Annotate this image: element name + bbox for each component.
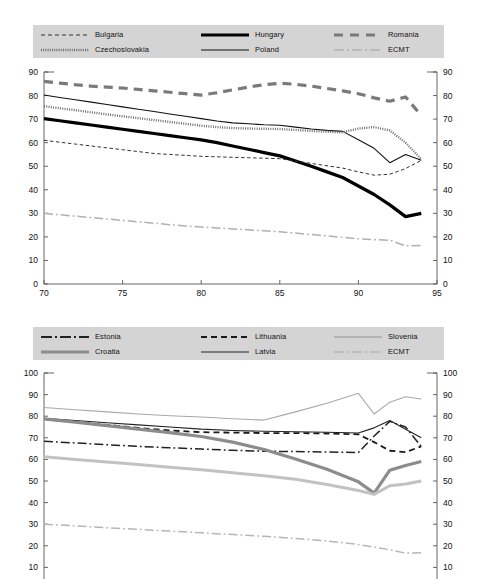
legend-label: Lithuania	[255, 332, 286, 341]
legend-row: Czechoslovakia Poland ECMT	[33, 42, 444, 57]
legend-row: Bulgaria Hungary Romania	[33, 27, 444, 42]
svg-text:80: 80	[29, 411, 39, 421]
legend-item-lithuania[interactable]: Lithuania	[201, 329, 334, 344]
figure-baltic-balkan: Estonia Lithuania Slovenia	[0, 325, 477, 579]
legend-row: Estonia Lithuania Slovenia	[33, 329, 444, 344]
chart-svg-1: 0010102020303040405050606070708080909070…	[0, 62, 477, 310]
legend-figure-1: Bulgaria Hungary Romania	[33, 25, 444, 58]
legend-label: Estonia	[95, 332, 121, 341]
svg-text:80: 80	[196, 288, 206, 298]
line-style-dashdot-black-icon	[41, 331, 89, 342]
legend-item-czechoslovakia[interactable]: Czechoslovakia	[33, 42, 201, 57]
legend-item-hungary[interactable]: Hungary	[201, 27, 334, 42]
svg-text:75: 75	[118, 288, 128, 298]
svg-text:60: 60	[29, 138, 39, 148]
ghost-header	[0, 0, 477, 22]
svg-text:90: 90	[29, 390, 39, 400]
svg-text:60: 60	[443, 454, 453, 464]
line-style-dashed-black-icon	[201, 331, 249, 342]
svg-text:0: 0	[443, 279, 448, 289]
legend-label: Romania	[388, 30, 419, 39]
legend-label: ECMT	[388, 45, 410, 54]
line-style-dashdot-icon	[334, 44, 382, 55]
line-style-solid-thin-icon	[201, 44, 249, 55]
svg-text:90: 90	[443, 390, 453, 400]
svg-text:95: 95	[432, 288, 442, 298]
line-style-solid-thick-gray-icon	[41, 346, 89, 357]
svg-text:30: 30	[443, 519, 453, 529]
svg-text:80: 80	[443, 91, 453, 101]
svg-text:20: 20	[29, 541, 39, 551]
plot-area-figure-1: 0010102020303040405050606070708080909070…	[0, 62, 477, 310]
svg-text:100: 100	[443, 368, 457, 378]
series-line-latvia	[44, 418, 421, 437]
legend-item-ecmt-2[interactable]: ECMT	[334, 344, 444, 359]
series-line-czechoslovakia	[44, 106, 421, 159]
line-style-solid-thick-icon	[201, 29, 249, 40]
line-style-dotted-icon	[41, 44, 89, 55]
svg-text:50: 50	[29, 161, 39, 171]
svg-text:50: 50	[443, 161, 453, 171]
legend-label: Poland	[255, 45, 279, 54]
svg-text:40: 40	[443, 498, 453, 508]
series-line-slovenia	[44, 393, 421, 420]
line-style-dashdot-lightgray-icon	[334, 346, 382, 357]
plot-area-figure-2: 1010202030304040505060607070808090901001…	[0, 363, 477, 579]
legend-item-poland[interactable]: Poland	[201, 42, 334, 57]
line-style-dashed-thick-icon	[334, 29, 382, 40]
legend-item-slovenia[interactable]: Slovenia	[334, 329, 444, 344]
svg-text:70: 70	[443, 114, 453, 124]
chart-page: Bulgaria Hungary Romania	[0, 0, 477, 579]
svg-text:50: 50	[29, 476, 39, 486]
svg-text:30: 30	[29, 519, 39, 529]
svg-text:60: 60	[443, 138, 453, 148]
line-style-solid-thin-black-icon	[201, 346, 249, 357]
svg-text:30: 30	[29, 208, 39, 218]
svg-text:20: 20	[443, 232, 453, 242]
svg-text:70: 70	[39, 288, 49, 298]
series-line-hungary	[44, 119, 421, 217]
svg-text:90: 90	[354, 288, 364, 298]
svg-text:0: 0	[33, 279, 38, 289]
svg-text:85: 85	[275, 288, 285, 298]
svg-text:80: 80	[29, 91, 39, 101]
svg-text:10: 10	[443, 562, 453, 572]
chart-svg-2: 1010202030304040505060607070808090901001…	[0, 363, 477, 579]
legend-label: Latvia	[255, 347, 276, 356]
legend-label: Slovenia	[388, 332, 418, 341]
series-line-ecmt	[44, 524, 421, 553]
legend-item-latvia[interactable]: Latvia	[201, 344, 334, 359]
legend-item-estonia[interactable]: Estonia	[33, 329, 201, 344]
svg-text:70: 70	[29, 433, 39, 443]
legend-figure-2: Estonia Lithuania Slovenia	[33, 327, 444, 360]
line-style-solid-lightgray-icon	[334, 331, 382, 342]
svg-text:30: 30	[443, 208, 453, 218]
svg-text:70: 70	[29, 114, 39, 124]
line-style-dashed-thin-icon	[41, 29, 89, 40]
legend-item-croatia[interactable]: Croatia	[33, 344, 201, 359]
svg-text:40: 40	[29, 185, 39, 195]
svg-text:90: 90	[443, 67, 453, 77]
legend-label: ECMT	[388, 347, 410, 356]
legend-row: Croatia Latvia ECMT	[33, 344, 444, 359]
svg-text:10: 10	[29, 562, 39, 572]
svg-text:20: 20	[443, 541, 453, 551]
legend-label: Bulgaria	[95, 30, 123, 39]
svg-text:10: 10	[29, 255, 39, 265]
svg-text:20: 20	[29, 232, 39, 242]
series-line-ecmt	[44, 213, 421, 246]
legend-item-bulgaria[interactable]: Bulgaria	[33, 27, 201, 42]
svg-text:80: 80	[443, 411, 453, 421]
svg-text:50: 50	[443, 476, 453, 486]
svg-text:60: 60	[29, 454, 39, 464]
legend-item-ecmt[interactable]: ECMT	[334, 42, 444, 57]
svg-text:10: 10	[443, 255, 453, 265]
legend-item-romania[interactable]: Romania	[334, 27, 444, 42]
legend-label: Croatia	[95, 347, 120, 356]
series-line-romania	[44, 81, 421, 115]
svg-text:100: 100	[24, 368, 38, 378]
figure-eastern-europe: Bulgaria Hungary Romania	[0, 22, 477, 312]
svg-text:90: 90	[29, 67, 39, 77]
legend-label: Hungary	[255, 30, 284, 39]
legend-label: Czechoslovakia	[95, 45, 149, 54]
